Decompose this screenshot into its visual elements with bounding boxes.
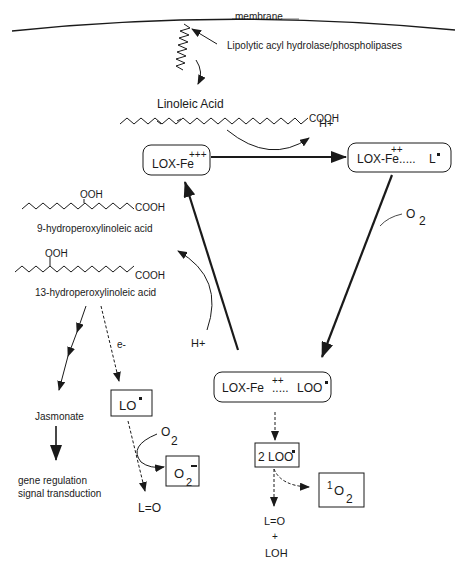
oxygenation-arrow xyxy=(322,175,392,357)
jasmonate-label: Jasmonate xyxy=(35,411,84,422)
singlet-oxygen-node: 1 O 2 xyxy=(319,473,364,507)
svg-text:COOH: COOH xyxy=(135,202,165,213)
electron-label: e- xyxy=(117,339,126,350)
svg-text:2: 2 xyxy=(346,492,353,506)
13-hpod-label: 13-hydroperoxylinoleic acid xyxy=(35,287,156,298)
membrane-label: membrane xyxy=(235,11,283,22)
final-loh-label: LOH xyxy=(265,547,288,559)
hydrolase-arrow xyxy=(192,29,217,44)
membrane: membrane xyxy=(12,11,455,31)
svg-text:LO: LO xyxy=(119,398,136,413)
svg-text:O: O xyxy=(334,483,344,498)
svg-text:COOH: COOH xyxy=(135,270,165,281)
signal-transduction-label: signal transduction xyxy=(18,488,101,499)
svg-text:2: 2 xyxy=(186,476,192,488)
lox-fe2-l-node: LOX-Fe ++ ..... L xyxy=(348,143,451,172)
svg-text:LOX-Fe: LOX-Fe xyxy=(222,381,264,395)
final-lo-label: L=O xyxy=(264,515,286,527)
svg-text:1: 1 xyxy=(327,480,333,491)
o2-lo-label: O 2 xyxy=(161,425,178,448)
enzyme-label: Lipolytic acyl hydrolase/phospholipases xyxy=(227,40,402,51)
h-plus-uptake-arrow xyxy=(178,251,212,330)
svg-text:2: 2 xyxy=(171,434,178,448)
two-loo-node: 2 LOO xyxy=(255,443,299,467)
acyl-chain-icon xyxy=(176,24,190,70)
h-plus-left-label: H+ xyxy=(191,337,205,349)
svg-text:LOO: LOO xyxy=(297,381,322,395)
final-plus-label: + xyxy=(272,531,278,542)
lo-radical-node: LO xyxy=(111,390,152,416)
o2-right-label: O 2 xyxy=(406,207,426,228)
lo-to-ketone-arrow xyxy=(128,421,145,491)
h-plus-top-label: H+ xyxy=(319,117,333,129)
jasmonate-pathway-arrow xyxy=(77,306,86,332)
svg-text:2: 2 xyxy=(419,214,426,228)
lipoxygenase-pathway-diagram: membrane Lipolytic acyl hydrolase/phosph… xyxy=(0,0,459,564)
lo-product-label: L=O xyxy=(138,501,161,515)
svg-text:L: L xyxy=(429,152,436,166)
linoleic-acid-structure: COOH xyxy=(120,113,339,124)
svg-text:O: O xyxy=(161,425,170,439)
release-product-arrow xyxy=(185,182,238,350)
superoxide-formation-arrow xyxy=(137,434,164,467)
svg-text:LOX-Fe: LOX-Fe xyxy=(152,157,194,171)
svg-text:2 LOO: 2 LOO xyxy=(258,450,293,464)
h-plus-release-arrow xyxy=(227,130,309,150)
lox-fe3-node: LOX-Fe +++ xyxy=(143,145,210,175)
9-hpod-label: 9-hydroperoxylinoleic acid xyxy=(37,223,153,234)
svg-text:OOH: OOH xyxy=(45,248,68,259)
svg-text:O: O xyxy=(406,207,415,221)
svg-text:.....: ..... xyxy=(272,381,289,395)
lox-fe2-loo-node: LOX-Fe ++ ..... LOO xyxy=(214,372,331,402)
svg-text:OOH: OOH xyxy=(80,189,103,200)
svg-text:O: O xyxy=(174,466,184,481)
linoleic-acid-label: Linoleic Acid xyxy=(157,97,224,111)
superoxide-node: O 2 xyxy=(166,456,199,488)
9-hpod-structure: OOH COOH xyxy=(22,189,165,213)
svg-text:+++: +++ xyxy=(189,149,207,160)
singlet-oxygen-arrow xyxy=(274,469,309,487)
svg-text:.....: ..... xyxy=(399,152,416,166)
release-arrow xyxy=(196,60,201,84)
gene-regulation-label: gene regulation xyxy=(18,475,87,486)
13-hpod-structure: OOH COOH xyxy=(15,248,165,281)
